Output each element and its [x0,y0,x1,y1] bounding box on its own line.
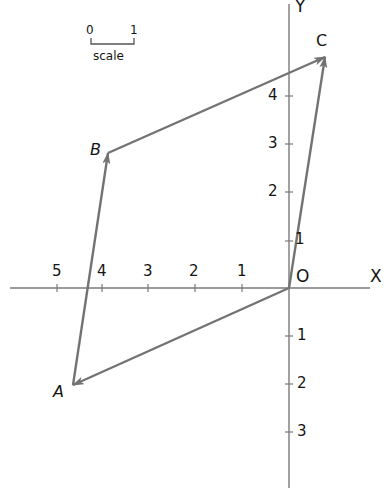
y-tick-label-4: 4 [268,88,278,103]
scale-end-label: 1 [130,24,138,36]
x-tick-label-5: 5 [52,264,62,279]
x-tick-label-4: 4 [97,264,107,279]
x-axis-label: X [370,268,382,285]
y-tick-label-neg-1: 1 [297,328,307,343]
x-tick-label-3: 3 [143,264,153,279]
origin-label: O [296,268,309,285]
x-tick-label-1: 1 [237,264,247,279]
point-b-label: B [90,142,101,158]
y-tick-label-1: 1 [295,232,305,247]
diagram-canvas [0,0,388,498]
y-tick-label-neg-3: 3 [297,424,307,439]
vector-oc [289,57,325,288]
point-a-label: A [53,384,64,400]
scale-start-label: 0 [86,24,94,36]
y-tick-label-neg-2: 2 [297,376,307,391]
y-axis-label: Y [295,0,305,15]
scale-caption: scale [93,50,124,62]
scale-bar [91,38,134,44]
x-tick-label-2: 2 [189,264,199,279]
y-tick-label-3: 3 [268,136,278,151]
vector-oa [73,288,289,385]
vector-bc [108,57,325,153]
y-tick-label-2: 2 [268,184,278,199]
point-c-label: C [316,33,327,49]
